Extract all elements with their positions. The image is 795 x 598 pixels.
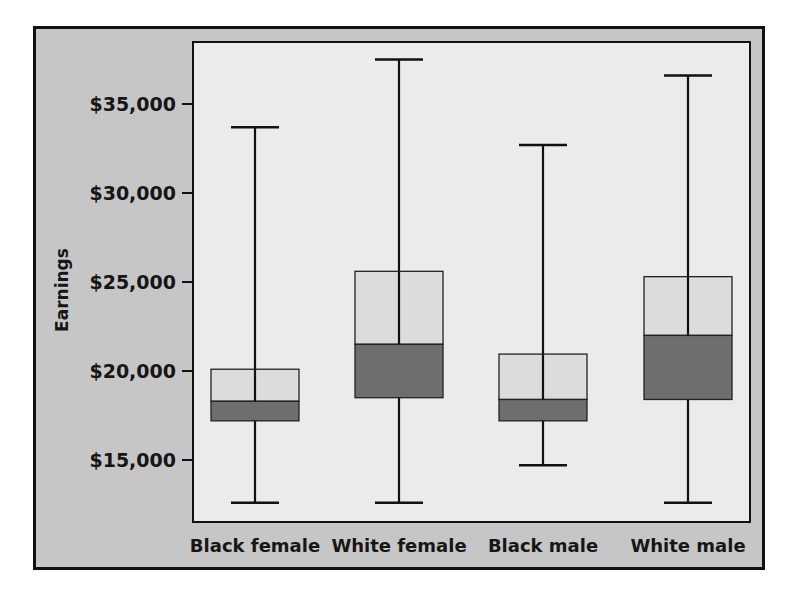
y-axis-label: Earnings bbox=[52, 248, 72, 332]
box-lower-half bbox=[499, 399, 587, 420]
y-axis: $15,000$20,000$25,000$30,000$35,000 bbox=[89, 93, 192, 471]
box-lower-half bbox=[355, 344, 443, 397]
x-category-label: Black female bbox=[190, 535, 320, 556]
y-tick-label: $25,000 bbox=[89, 271, 176, 293]
box-lower-half bbox=[644, 335, 732, 399]
y-tick-label: $30,000 bbox=[89, 182, 176, 204]
box-black-female bbox=[211, 127, 299, 503]
x-category-label: Black male bbox=[488, 535, 598, 556]
x-category-label: White male bbox=[630, 535, 745, 556]
y-tick-label: $15,000 bbox=[89, 449, 176, 471]
boxes bbox=[211, 60, 732, 503]
boxplot-chart: $15,000$20,000$25,000$30,000$35,000 Blac… bbox=[0, 0, 795, 598]
y-tick-label: $20,000 bbox=[89, 360, 176, 382]
y-tick-label: $35,000 bbox=[89, 93, 176, 115]
x-axis: Black femaleWhite femaleBlack maleWhite … bbox=[190, 535, 746, 556]
x-category-label: White female bbox=[331, 535, 466, 556]
box-lower-half bbox=[211, 401, 299, 421]
box-black-male bbox=[499, 145, 587, 465]
box-white-male bbox=[644, 76, 732, 503]
box-white-female bbox=[355, 60, 443, 503]
